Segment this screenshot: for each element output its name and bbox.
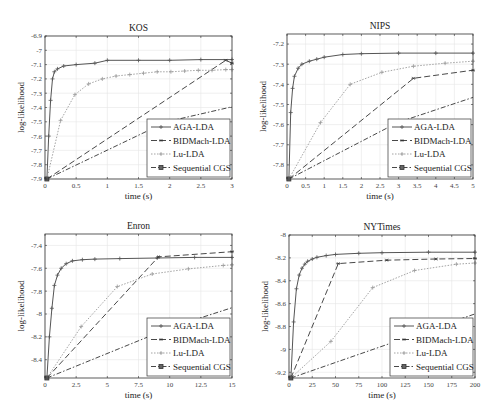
legend-label: Sequential CGS: [173, 362, 231, 372]
legend-label: AGA-LDA: [416, 321, 457, 331]
subplot-nips: 00.511.522.533.544.55-7.8-7.7-7.6-7.5-7.…: [258, 21, 475, 201]
y-tick-label: -7.4: [31, 104, 43, 112]
legend-label: BIDMach-LDA: [416, 335, 474, 345]
y-tick-label: -6.9: [31, 32, 43, 40]
x-tick-label: 2: [168, 182, 172, 190]
legend-marker: [159, 365, 163, 369]
x-tick-label: 0: [285, 182, 289, 190]
x-axis-label: time (s): [125, 191, 153, 201]
legend-marker: [159, 166, 163, 170]
x-tick-label: 10: [166, 381, 174, 389]
y-tick-label: -9.2: [275, 369, 287, 377]
legend: AGA-LDABIDMach-LDALu-LDASequential CGS: [388, 119, 472, 177]
x-axis-label: time (s): [366, 191, 394, 201]
x-tick-label: 5: [106, 381, 110, 389]
x-tick-label: 3: [230, 182, 234, 190]
x-tick-label: 50: [332, 381, 340, 389]
x-tick-label: 0: [43, 381, 47, 389]
x-tick-label: 125: [400, 381, 411, 389]
y-tick-label: -7.2: [31, 75, 43, 83]
y-tick-label: -7.8: [273, 161, 285, 169]
legend-label: Lu-LDA: [173, 149, 205, 159]
x-tick-label: 5: [471, 182, 475, 190]
y-tick-label: -7.7: [31, 147, 43, 155]
x-tick-label: 1.5: [134, 182, 143, 190]
y-tick-label: -7: [36, 47, 42, 55]
y-tick-label: -7.3: [31, 90, 43, 98]
y-axis-label: log-likelihood: [258, 81, 268, 132]
legend-label: Sequential CGS: [414, 163, 472, 173]
x-tick-label: 1: [106, 182, 110, 190]
legend: AGA-LDABIDMach-LDALu-LDASequential CGS: [390, 318, 474, 376]
x-tick-label: 200: [470, 381, 481, 389]
x-tick-label: 1: [322, 182, 326, 190]
y-tick-label: -8.2: [275, 254, 287, 262]
x-tick-label: 3.5: [413, 182, 422, 190]
legend: AGA-LDABIDMach-LDALu-LDASequential CGS: [147, 318, 231, 376]
legend-label: Sequential CGS: [173, 163, 231, 173]
y-tick-label: -7.7: [273, 141, 285, 149]
x-tick-label: 75: [355, 381, 363, 389]
y-axis-label: log-likelihood: [260, 281, 270, 332]
x-tick-label: 0: [43, 182, 47, 190]
legend-label: Lu-LDA: [173, 348, 205, 358]
y-tick-label: -8.6: [275, 300, 287, 308]
y-tick-label: -7.1: [31, 61, 43, 69]
x-tick-label: 1.5: [338, 182, 347, 190]
y-tick-label: -7.4: [273, 81, 285, 89]
x-tick-label: 4.5: [450, 182, 459, 190]
subplot-nytimes: 0255075100125150175200-9.2-9-8.8-8.6-8.4…: [260, 222, 481, 400]
y-tick-label: -7.6: [31, 133, 43, 141]
y-tick-label: -8.4: [31, 356, 43, 364]
legend-label: AGA-LDA: [173, 321, 214, 331]
legend-marker: [400, 166, 404, 170]
legend: AGA-LDABIDMach-LDALu-LDASequential CGS: [147, 119, 231, 177]
legend-label: AGA-LDA: [173, 122, 214, 132]
x-tick-label: 2: [360, 182, 364, 190]
x-tick-label: 0: [287, 381, 291, 389]
y-tick-label: -7.8: [31, 161, 43, 169]
subplot-enron: 02.557.51012.515-8.4-8.2-8-7.8-7.6-7.4En…: [16, 221, 236, 400]
y-tick-label: -8: [36, 310, 42, 318]
chart-title: NYTimes: [363, 222, 400, 232]
chart-title: NIPS: [370, 21, 391, 31]
legend-label: Sequential CGS: [416, 362, 474, 372]
y-tick-label: -7.2: [273, 40, 285, 48]
y-axis-label: log-likelihood: [16, 280, 26, 331]
y-tick-label: -7.3: [273, 61, 285, 69]
y-tick-label: -8.2: [31, 333, 43, 341]
x-tick-label: 12.5: [195, 381, 208, 389]
x-tick-label: 7.5: [134, 381, 143, 389]
legend-label: BIDMach-LDA: [173, 136, 231, 146]
chart-title: KOS: [129, 23, 148, 33]
x-tick-label: 0.5: [72, 182, 81, 190]
x-tick-label: 0.5: [301, 182, 310, 190]
y-tick-label: -7.5: [273, 101, 285, 109]
x-tick-label: 100: [377, 381, 388, 389]
x-tick-label: 150: [423, 381, 434, 389]
x-axis-label: time (s): [125, 390, 153, 400]
y-axis-label: log-likelihood: [16, 82, 26, 133]
y-tick-label: -7.8: [31, 288, 43, 296]
y-tick-label: -7.4: [31, 242, 43, 250]
y-tick-label: -7.6: [273, 121, 285, 129]
legend-label: BIDMach-LDA: [414, 136, 472, 146]
y-tick-label: -7.6: [31, 265, 43, 273]
y-tick-label: -8.4: [275, 277, 287, 285]
y-tick-label: -9: [280, 346, 286, 354]
legend-label: AGA-LDA: [414, 122, 455, 132]
x-tick-label: 25: [309, 381, 317, 389]
x-tick-label: 175: [447, 381, 458, 389]
x-tick-label: 3: [397, 182, 401, 190]
x-tick-label: 15: [229, 381, 237, 389]
y-tick-label: -8.8: [275, 323, 287, 331]
x-tick-label: 2.5: [72, 381, 81, 389]
x-tick-label: 2.5: [376, 182, 385, 190]
legend-label: BIDMach-LDA: [173, 335, 231, 345]
y-tick-label: -7.5: [31, 118, 43, 126]
y-tick-label: -8: [280, 231, 286, 239]
chart-title: Enron: [127, 221, 150, 231]
x-tick-label: 4: [434, 182, 438, 190]
x-axis-label: time (s): [368, 390, 396, 400]
x-tick-label: 2.5: [196, 182, 205, 190]
